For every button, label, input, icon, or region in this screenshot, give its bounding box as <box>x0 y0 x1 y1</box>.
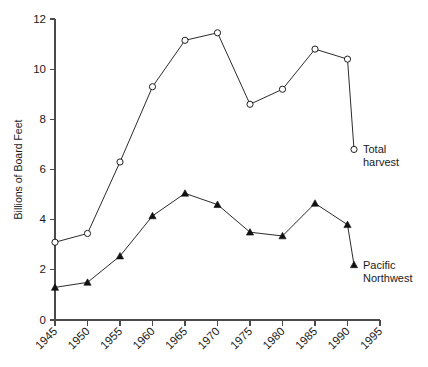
x-axis-tick-label: 1970 <box>195 325 222 352</box>
x-axis-tick-label: 1975 <box>228 325 255 352</box>
data-point-marker <box>351 146 357 152</box>
series-label-2-line2: Northwest <box>363 272 413 284</box>
data-point-marker <box>181 190 188 196</box>
x-axis-tick-label: 1990 <box>325 325 352 352</box>
data-point-marker <box>350 261 357 267</box>
series-line-1 <box>55 33 354 242</box>
data-point-marker <box>312 46 318 52</box>
data-point-marker <box>344 221 351 227</box>
data-point-marker <box>117 159 123 165</box>
y-axis-tick-label: 8 <box>40 113 46 125</box>
chart-canvas: 024681012 194519501955196019651970197519… <box>0 0 428 367</box>
data-point-marker <box>214 30 220 36</box>
line-chart: 024681012 194519501955196019651970197519… <box>0 0 428 367</box>
x-axis-tick-label: 1950 <box>65 325 92 352</box>
y-axis: 024681012 <box>33 13 55 326</box>
data-point-marker <box>247 101 253 107</box>
series-label-1-line2: harvest <box>363 156 399 168</box>
y-axis-tick-label: 12 <box>33 13 46 25</box>
data-point-marker <box>182 37 188 43</box>
y-axis-tick-label: 0 <box>40 314 46 326</box>
x-axis-tick-label: 1985 <box>293 325 320 352</box>
data-point-marker <box>52 239 58 245</box>
data-series-group <box>51 30 357 291</box>
data-point-marker <box>84 230 90 236</box>
x-axis-tick-label: 1945 <box>33 325 60 352</box>
data-point-marker <box>149 84 155 90</box>
axis-titles: Billions of Board Feet <box>12 120 24 220</box>
y-axis-tick-label: 10 <box>33 63 46 75</box>
y-axis-tick-label: 6 <box>40 163 46 175</box>
x-axis-tick-label: 1955 <box>98 325 125 352</box>
x-axis-tick-label: 1965 <box>163 325 190 352</box>
series-label-1: Total <box>363 143 386 155</box>
data-point-marker <box>311 200 318 206</box>
y-axis-tick-label: 4 <box>40 213 47 225</box>
x-axis-tick-label: 1960 <box>130 325 157 352</box>
series-label-2: Pacific <box>363 259 396 271</box>
data-point-marker <box>344 56 350 62</box>
data-point-marker <box>279 86 285 92</box>
y-axis-tick-label: 2 <box>40 263 46 275</box>
y-axis-title: Billions of Board Feet <box>12 120 24 220</box>
data-point-marker <box>149 212 156 218</box>
x-axis-tick-label: 1995 <box>358 325 385 352</box>
x-axis-tick-label: 1980 <box>260 325 287 352</box>
x-axis: 1945195019551960196519701975198019851990… <box>33 320 385 352</box>
series-labels: TotalharvestPacificNorthwest <box>363 143 413 283</box>
